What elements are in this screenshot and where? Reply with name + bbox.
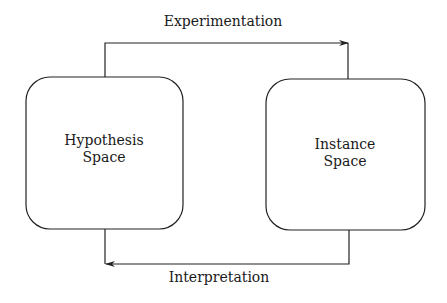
instance-space-line2: Space (275, 153, 415, 170)
instance-space-label: Instance Space (275, 136, 415, 170)
experimentation-label: Experimentation (163, 13, 283, 30)
hypothesis-space-line1: Hypothesis (34, 132, 174, 149)
diagram-canvas: Experimentation Interpretation Hypothesi… (0, 0, 447, 303)
experimentation-arrow (105, 43, 348, 77)
instance-space-line1: Instance (275, 136, 415, 153)
hypothesis-space-line2: Space (34, 149, 174, 166)
interpretation-arrow (106, 230, 349, 264)
interpretation-label: Interpretation (161, 269, 277, 286)
hypothesis-space-label: Hypothesis Space (34, 132, 174, 166)
